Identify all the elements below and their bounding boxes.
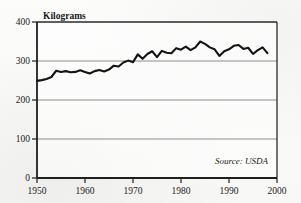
source-note: Source: USDA — [215, 156, 268, 166]
line-chart: 0 100 200 300 400 1950 1960 1970 1980 19… — [0, 0, 301, 203]
y-axis-tick-labels: 0 100 200 300 400 — [16, 17, 31, 183]
chart-figure: 0 100 200 300 400 1950 1960 1970 1980 19… — [0, 0, 301, 203]
y-axis-title: Kilograms — [43, 11, 86, 21]
y-tick-label-200: 200 — [16, 95, 31, 105]
x-tick-label-1960: 1960 — [76, 186, 95, 196]
y-tick-label-0: 0 — [25, 173, 30, 183]
y-tick-label-100: 100 — [16, 134, 31, 144]
y-tick-label-300: 300 — [16, 56, 31, 66]
x-axis-tick-labels: 1950 1960 1970 1980 1990 2000 — [28, 186, 287, 196]
x-tick-label-1990: 1990 — [220, 186, 239, 196]
x-tick-label-1980: 1980 — [172, 186, 191, 196]
x-tick-label-1950: 1950 — [28, 186, 47, 196]
y-tick-label-400: 400 — [16, 17, 31, 27]
x-tick-label-2000: 2000 — [268, 186, 287, 196]
x-tick-label-1970: 1970 — [124, 186, 143, 196]
